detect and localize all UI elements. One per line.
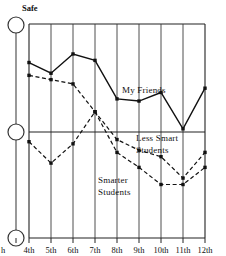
tick-label-9th: 9th <box>134 245 146 255</box>
tick-label-8th: 8th <box>112 245 124 255</box>
series-label-less-smart-line2: Students <box>136 145 169 155</box>
tick-label-11th: 11th <box>176 245 192 255</box>
data-point-marker <box>203 166 206 169</box>
series-label-smarter-line2: Students <box>98 187 131 197</box>
data-point-marker <box>159 183 162 186</box>
middle-node-circle-icon <box>8 124 24 140</box>
data-point-marker <box>71 82 74 85</box>
data-point-marker <box>137 99 140 102</box>
data-point-marker <box>27 74 30 77</box>
data-point-marker <box>137 166 140 169</box>
tick-label-5th: 5th <box>46 245 58 255</box>
tick-label-4th: 4th <box>24 245 36 255</box>
data-point-marker <box>159 155 162 158</box>
data-point-marker <box>27 140 30 143</box>
tick-label-10th: 10th <box>153 245 169 255</box>
data-point-marker <box>93 110 96 113</box>
data-point-marker <box>181 183 184 186</box>
tick-label-7th: 7th <box>90 245 102 255</box>
safe-label: Safe <box>22 3 38 13</box>
series-label-my-friends: My Friends <box>122 85 166 95</box>
data-point-marker <box>115 138 118 141</box>
series-label-less-smart-line1: Less Smart <box>136 133 179 143</box>
series-label-smarter-line1: Smarter <box>98 175 128 185</box>
tick-label-12th: 12th <box>197 245 213 255</box>
data-point-marker <box>203 151 206 154</box>
left-axis-rail <box>8 17 24 246</box>
data-point-marker <box>71 142 74 145</box>
data-point-marker <box>181 127 184 130</box>
data-point-marker <box>115 151 118 154</box>
x-axis-tick-labels: 4th5th6th7th8th9th10th11th12th <box>24 245 214 255</box>
data-point-marker <box>71 52 74 55</box>
data-point-marker <box>115 97 118 100</box>
chart-figure: Safe My Friends Less Smart Students Smar… <box>0 0 226 256</box>
data-point-marker <box>93 59 96 62</box>
data-point-marker <box>49 161 52 164</box>
data-point-marker <box>49 72 52 75</box>
data-point-marker <box>49 78 52 81</box>
data-point-marker <box>27 61 30 64</box>
safe-node-circle-icon <box>8 17 24 33</box>
data-point-marker <box>203 87 206 90</box>
tick-label-6th: 6th <box>68 245 80 255</box>
data-point-marker <box>181 176 184 179</box>
tick-label-partial-left: h <box>1 245 6 255</box>
line-chart-canvas: Safe My Friends Less Smart Students Smar… <box>0 0 226 256</box>
x-axis-ticks <box>16 238 205 243</box>
